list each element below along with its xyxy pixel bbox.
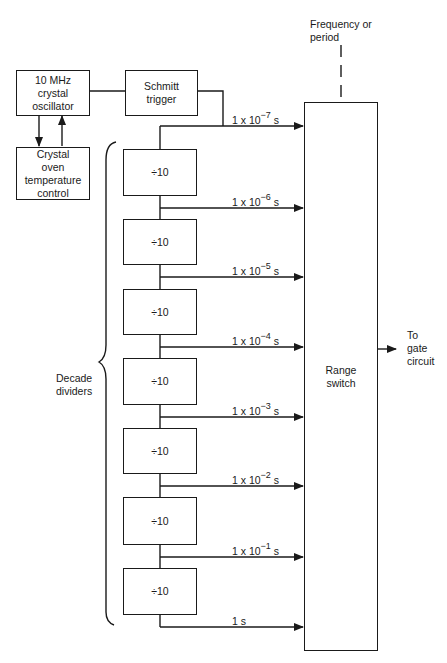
tap-base: 1 x 10 bbox=[232, 545, 261, 557]
oven-temperature-control-block: Crystal oven temperature control bbox=[16, 147, 90, 200]
divider-block-3: ÷10 bbox=[123, 289, 197, 335]
divider-block-1: ÷10 bbox=[123, 149, 197, 196]
oscillator-label-1: 10 MHz bbox=[32, 74, 73, 87]
range-switch-block: Range switch bbox=[304, 102, 378, 651]
frequency-label-1: Frequency or bbox=[310, 18, 372, 31]
tap-exponent: −1 bbox=[261, 541, 271, 551]
divider-label: ÷10 bbox=[151, 445, 168, 458]
output-label-3: circuit bbox=[407, 355, 434, 368]
oscillator-label-2: crystal bbox=[32, 87, 73, 100]
decade-label-2: dividers bbox=[56, 385, 92, 398]
tap-unit: s bbox=[271, 405, 279, 417]
tap-exponent: −5 bbox=[261, 261, 271, 271]
divider-label: ÷10 bbox=[151, 515, 168, 528]
tap-exponent: −2 bbox=[261, 470, 271, 480]
range-switch-label-1: Range bbox=[326, 364, 357, 377]
tap-unit: s bbox=[271, 474, 279, 486]
oven-label-3: temperature bbox=[25, 174, 82, 187]
schmitt-label-1: Schmitt bbox=[144, 80, 179, 93]
divider-label: ÷10 bbox=[151, 375, 168, 388]
tap-unit: s bbox=[271, 545, 279, 557]
tap-label-1e-3: 1 x 10−3 s bbox=[232, 402, 279, 417]
oven-label-1: Crystal bbox=[25, 148, 82, 161]
decade-dividers-label: Decade dividers bbox=[56, 372, 92, 398]
tap-label-1e-7: 1 x 10−7 s bbox=[232, 111, 279, 126]
oven-label-4: control bbox=[25, 187, 82, 200]
tap-label-1e-4: 1 x 10−4 s bbox=[232, 332, 279, 347]
tap-unit: s bbox=[271, 196, 279, 208]
crystal-oscillator-block: 10 MHz crystal oscillator bbox=[16, 70, 90, 116]
tap-exponent: −6 bbox=[261, 192, 271, 202]
tap-base: 1 x 10 bbox=[232, 265, 261, 277]
tap-label-1e-5: 1 x 10−5 s bbox=[232, 262, 279, 277]
tap-base: 1 x 10 bbox=[232, 405, 261, 417]
decade-label-1: Decade bbox=[56, 372, 92, 385]
range-switch-label-2: switch bbox=[326, 377, 357, 390]
tap-label-1e-2: 1 x 10−2 s bbox=[232, 471, 279, 486]
tap-label-1e-1: 1 x 10−1 s bbox=[232, 542, 279, 557]
divider-block-5: ÷10 bbox=[123, 428, 197, 474]
frequency-period-label: Frequency or period bbox=[310, 18, 372, 44]
divider-block-4: ÷10 bbox=[123, 358, 197, 405]
schmitt-label-2: trigger bbox=[144, 93, 179, 106]
oscillator-label-3: oscillator bbox=[32, 100, 73, 113]
tap-base: 1 x 10 bbox=[232, 196, 261, 208]
output-label-1: To bbox=[407, 329, 434, 342]
tap-exponent: −4 bbox=[261, 331, 271, 341]
divider-label: ÷10 bbox=[151, 236, 168, 249]
tap-exponent: −7 bbox=[261, 110, 271, 120]
output-label-2: gate bbox=[407, 342, 434, 355]
tap-label-1e-6: 1 x 10−6 s bbox=[232, 193, 279, 208]
tap-unit: s bbox=[271, 265, 279, 277]
to-gate-circuit-label: To gate circuit bbox=[407, 329, 434, 368]
divider-block-6: ÷10 bbox=[123, 497, 197, 545]
tap-label-1s: 1 s bbox=[232, 612, 246, 627]
divider-label: ÷10 bbox=[151, 166, 168, 179]
divider-block-7: ÷10 bbox=[123, 568, 197, 615]
tap-base: 1 x 10 bbox=[232, 335, 261, 347]
tap-exponent: −3 bbox=[261, 401, 271, 411]
oven-label-2: oven bbox=[25, 161, 82, 174]
schmitt-trigger-block: Schmitt trigger bbox=[125, 70, 198, 116]
divider-block-2: ÷10 bbox=[123, 219, 197, 265]
tap-unit: s bbox=[271, 335, 279, 347]
tap-unit: s bbox=[271, 114, 279, 126]
divider-label: ÷10 bbox=[151, 585, 168, 598]
divider-label: ÷10 bbox=[151, 306, 168, 319]
frequency-label-2: period bbox=[310, 31, 372, 44]
tap-base: 1 x 10 bbox=[232, 474, 261, 486]
tap-base: 1 x 10 bbox=[232, 114, 261, 126]
tap-base: 1 s bbox=[232, 615, 246, 627]
